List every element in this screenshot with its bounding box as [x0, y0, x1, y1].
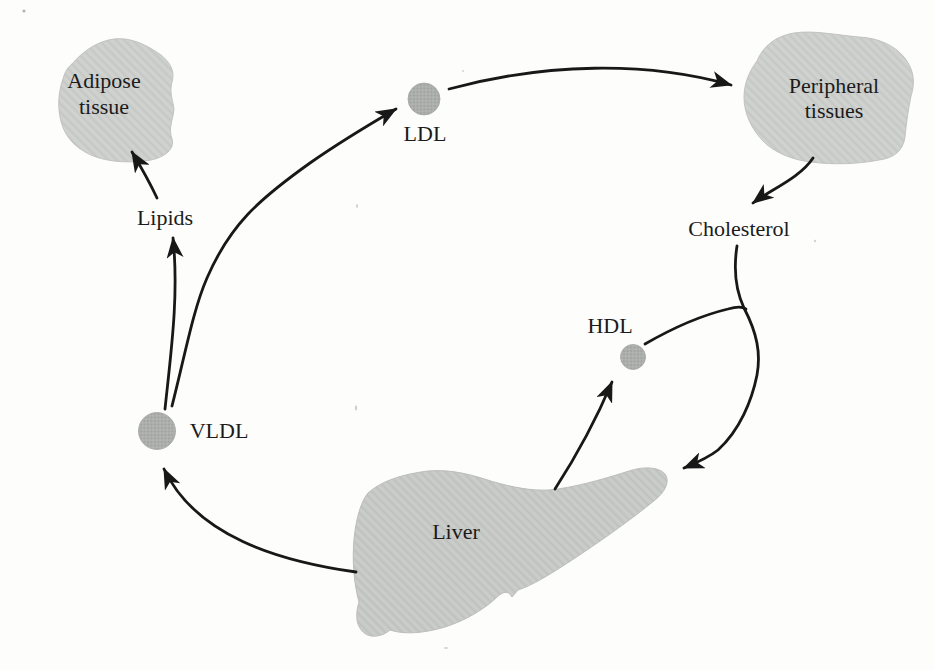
cholesterol-label: Cholesterol	[688, 216, 789, 241]
diagram-canvas: Adipose tissue Peripheral tissues LDL VL…	[0, 0, 934, 670]
vldl-particle	[139, 413, 176, 450]
arrow-liver-to-hdl	[555, 382, 612, 489]
arrow-ldl-to-peripheral	[449, 68, 731, 89]
curve-hdl-to-cholesterol-path	[645, 307, 746, 344]
lipoprotein-transport-figure: Adipose tissue Peripheral tissues LDL VL…	[0, 0, 934, 670]
hdl-label: HDL	[587, 313, 632, 338]
arrow-cholesterol-to-liver	[684, 246, 758, 468]
arrow-vldl-to-ldl	[172, 109, 396, 406]
arrow-liver-to-vldl	[164, 469, 356, 572]
adipose-tissue-label-line-1: Adipose	[67, 68, 140, 93]
liver-label: Liver	[432, 519, 480, 544]
arrow-peripheral-to-cholesterol	[753, 158, 813, 203]
adipose-tissue-label-line-2: tissue	[79, 94, 129, 119]
peripheral-tissues-label-line-1: Peripheral	[789, 73, 879, 98]
ldl-particle	[408, 83, 440, 115]
hdl-particle	[621, 345, 646, 370]
liver-shape	[353, 468, 667, 636]
arrow-vldl-to-lipids	[165, 238, 175, 409]
peripheral-tissues-label-line-2: tissues	[805, 98, 864, 123]
lipids-label: Lipids	[137, 205, 193, 230]
vldl-label: VLDL	[190, 418, 249, 443]
ldl-label: LDL	[404, 121, 447, 146]
